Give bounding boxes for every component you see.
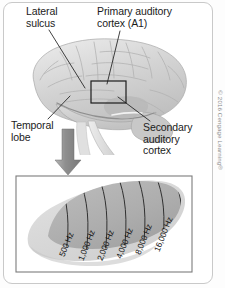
label-temporal-lobe: Temporal lobe [11, 120, 53, 143]
auditory-cortex-figure: Lateral sulcus Primary auditory cortex (… [0, 0, 225, 288]
label-primary-auditory-cortex: Primary auditory cortex (A1) [97, 6, 172, 29]
label-secondary-auditory-cortex: Secondary auditory cortex [143, 122, 192, 157]
brain-illustration [33, 39, 186, 188]
label-lateral-sulcus: Lateral sulcus [26, 6, 57, 29]
copyright-notice: © 2016 Cengage Learning® [217, 90, 224, 170]
